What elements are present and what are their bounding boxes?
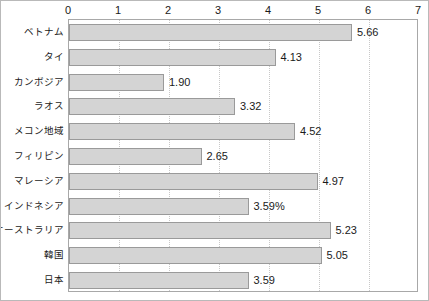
bar — [69, 24, 352, 41]
bar-row: 3.59 — [69, 272, 417, 289]
category-label: 韓国 — [44, 246, 64, 263]
x-tick-label-0: 0 — [65, 3, 71, 17]
bar-value-label: 1.90 — [169, 75, 190, 90]
bar — [69, 272, 249, 289]
category-label: フィリピン — [14, 147, 64, 164]
bar-row: 3.59% — [69, 198, 417, 215]
bar-row: 5.05 — [69, 247, 417, 264]
bar — [69, 49, 276, 66]
bar-value-label: 4.13 — [281, 50, 302, 65]
bar — [69, 247, 322, 264]
category-label: ベトナム — [24, 23, 64, 40]
bar-value-label: 3.59 — [254, 273, 275, 288]
bar — [69, 98, 235, 115]
bar-row: 5.66 — [69, 24, 417, 41]
bar-row: 4.97 — [69, 173, 417, 190]
category-label: オーストラリア — [0, 221, 64, 238]
bar-value-label: 5.66 — [357, 25, 378, 40]
bar-value-label: 5.23 — [336, 223, 357, 238]
category-label: 日本 — [44, 271, 64, 288]
bar-value-label: 2.65 — [207, 149, 228, 164]
bar-row: 3.32 — [69, 98, 417, 115]
category-label: インドネシア — [4, 197, 64, 214]
bar — [69, 198, 249, 215]
bar — [69, 74, 164, 91]
bar-rows: 5.664.131.903.324.522.654.973.59%5.235.0… — [69, 20, 417, 291]
bar — [69, 123, 295, 140]
bar-row: 4.52 — [69, 123, 417, 140]
category-label: メコン地域 — [14, 122, 64, 139]
x-tick-label-1: 1 — [115, 3, 121, 17]
bar — [69, 173, 318, 190]
x-tick-label-4: 4 — [265, 3, 271, 17]
bar-value-label: 4.97 — [323, 174, 344, 189]
category-axis-labels: ベトナムタイカンボジアラオスメコン地域フィリピンマレーシアインドネシアオーストラ… — [1, 19, 67, 292]
bar — [69, 222, 331, 239]
bar-value-label: 3.32 — [240, 99, 261, 114]
x-tick-label-6: 6 — [365, 3, 371, 17]
bar-row: 2.65 — [69, 148, 417, 165]
bar-value-label: 4.52 — [300, 124, 321, 139]
bar — [69, 148, 202, 165]
x-axis-tick-labels: 01234567 — [68, 1, 418, 19]
category-label: タイ — [44, 48, 64, 65]
x-tick-label-2: 2 — [165, 3, 171, 17]
bar-value-label: 3.59% — [254, 199, 285, 214]
category-label: ラオス — [34, 97, 64, 114]
category-label: マレーシア — [14, 172, 64, 189]
bar-value-label: 5.05 — [327, 248, 348, 263]
x-tick-label-5: 5 — [315, 3, 321, 17]
bar-row: 5.23 — [69, 222, 417, 239]
bar-row: 1.90 — [69, 74, 417, 91]
bar-row: 4.13 — [69, 49, 417, 66]
x-tick-label-7: 7 — [415, 3, 421, 17]
x-tick-label-3: 3 — [215, 3, 221, 17]
bar-chart: 01234567 ベトナムタイカンボジアラオスメコン地域フィリピンマレーシアイン… — [0, 0, 429, 301]
category-label: カンボジア — [14, 73, 64, 90]
plot-area: 5.664.131.903.324.522.654.973.59%5.235.0… — [68, 19, 418, 292]
